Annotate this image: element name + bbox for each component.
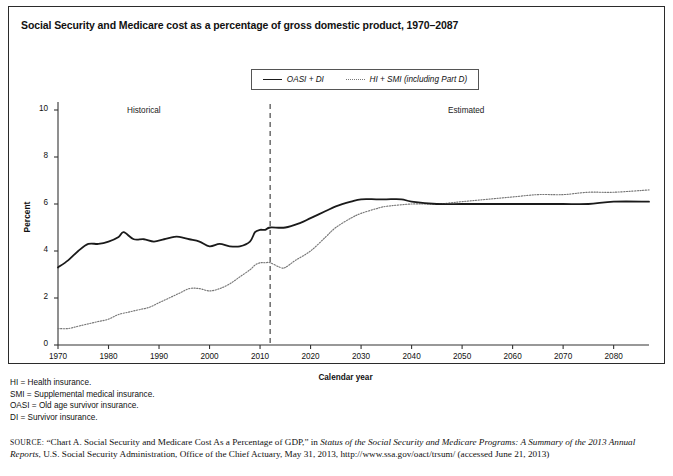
series-line-oasi-di: [58, 199, 649, 267]
x-tick-label: 2030: [341, 352, 381, 361]
y-tick-label: 0: [22, 339, 48, 348]
y-tick-label: 6: [22, 198, 48, 207]
y-tick-label: 8: [22, 151, 48, 160]
x-tick-label: 2000: [190, 352, 230, 361]
x-tick-label: 2070: [543, 352, 583, 361]
abbreviation-notes: HI = Health insurance.SMI = Supplemental…: [10, 377, 155, 423]
source-text-part2: , U.S. Social Security Administration, O…: [39, 449, 550, 459]
y-tick-label: 10: [22, 104, 48, 113]
y-tick-label: 4: [22, 245, 48, 254]
x-tick-label: 2040: [392, 352, 432, 361]
x-tick-label: 2020: [291, 352, 331, 361]
figure-panel: Social Security and Medicare cost as a p…: [8, 6, 665, 364]
series-line-hi-smi: [58, 190, 649, 329]
x-tick-label: 1970: [38, 352, 78, 361]
y-tick-label: 2: [22, 292, 48, 301]
abbreviation-note-line: SMI = Supplemental medical insurance.: [10, 389, 155, 401]
x-tick-label: 2050: [442, 352, 482, 361]
x-tick-label: 1980: [89, 352, 129, 361]
chart-plot-area: [9, 7, 666, 365]
abbreviation-note-line: HI = Health insurance.: [10, 377, 155, 389]
x-tick-label: 1990: [139, 352, 179, 361]
abbreviation-note-line: DI = Survivor insurance.: [10, 412, 155, 424]
source-text-part1: “Chart A. Social Security and Medicare C…: [46, 437, 320, 447]
x-tick-label: 2010: [240, 352, 280, 361]
x-tick-label: 2060: [493, 352, 533, 361]
source-label: source:: [10, 438, 44, 447]
x-tick-label: 2080: [594, 352, 634, 361]
source-citation: source: “Chart A. Social Security and Me…: [10, 437, 665, 460]
abbreviation-note-line: OASI = Old age survivor insurance.: [10, 400, 155, 412]
